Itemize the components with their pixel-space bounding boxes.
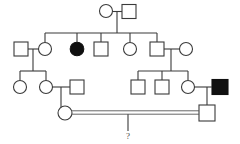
individual-II-1-male-unaffected[interactable] [14, 42, 28, 56]
generation-1-group [100, 5, 137, 34]
individual-III-3-male-unaffected[interactable] [70, 80, 84, 94]
individual-I-1-female-unaffected[interactable] [100, 5, 113, 18]
individual-III-7-male-affected[interactable] [212, 80, 228, 95]
individual-IV-2-male-unaffected[interactable] [199, 105, 215, 121]
individual-II-5-female-unaffected[interactable] [124, 43, 137, 56]
individual-III-4-male-unaffected[interactable] [131, 80, 145, 94]
individual-III-1-female-unaffected[interactable] [14, 81, 27, 94]
individual-II-3-female-affected[interactable] [70, 42, 84, 56]
individual-II-6-male-unaffected[interactable] [150, 42, 164, 56]
sibship-bar-generation-2-group [45, 33, 157, 43]
generation-4-group: ? [58, 105, 215, 141]
generation-3-group [14, 80, 229, 114]
individual-III-6-female-unaffected[interactable] [182, 81, 195, 94]
individual-II-7-female-unaffected[interactable] [180, 43, 193, 56]
individual-II-2-female-unaffected[interactable] [39, 43, 52, 56]
individual-III-5-male-unaffected[interactable] [155, 80, 169, 94]
generation-2-group [14, 42, 193, 71]
individual-I-2-male-unaffected[interactable] [122, 5, 136, 19]
pedigree-canvas: ? [0, 0, 240, 144]
individual-II-4-male-unaffected[interactable] [94, 42, 108, 56]
unknown-offspring-question-mark: ? [126, 131, 130, 141]
sibship-bar-generation-3-group [20, 71, 188, 81]
individual-III-2-female-unaffected[interactable] [40, 81, 53, 94]
pedigree-chart: ? [0, 0, 240, 144]
individual-IV-1-female-unaffected[interactable] [58, 106, 72, 120]
